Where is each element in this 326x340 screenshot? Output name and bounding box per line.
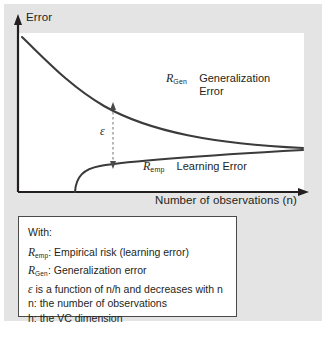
generalization-name-line1: Generalization: [199, 72, 270, 84]
legend-rgen-text: : Generalization error: [48, 264, 147, 276]
legend-box: With: Remp: Empirical risk (learning err…: [18, 216, 237, 317]
legend-item-remp: Remp: Empirical risk (learning error): [28, 245, 236, 264]
legend-title: With:: [28, 225, 236, 240]
figure-container: Error Number of observations (n) RGenGen…: [0, 0, 326, 340]
learning-error-label: RempLearning Error: [143, 160, 247, 176]
y-axis: [14, 14, 22, 192]
legend-remp-text: : Empirical risk (learning error): [48, 246, 189, 258]
legend-remp-symbol: R: [28, 246, 35, 258]
legend-item-n: n: the number of observations: [28, 296, 236, 311]
x-axis-label: Number of observations (n): [155, 194, 297, 206]
learning-error-name: Learning Error: [177, 160, 247, 173]
chart-canvas: [0, 0, 326, 215]
empirical-subscript: emp: [150, 166, 164, 173]
legend-rgen-subscript: Gen: [35, 270, 48, 277]
legend-rgen-symbol: R: [28, 264, 35, 276]
generalization-subscript: Gen: [173, 78, 187, 85]
legend-item-epsilon: ε is a function of n/h and decreases wit…: [28, 282, 236, 297]
legend-epsilon-text: is a function of n/h and decreases with …: [33, 283, 223, 295]
y-axis-label: Error: [26, 11, 52, 23]
legend-remp-subscript: emp: [35, 252, 48, 259]
generalization-error-label: RGenGeneralizationError: [166, 72, 270, 98]
epsilon-label: ε: [100, 124, 105, 139]
legend-item-rgen: RGen: Generalization error: [28, 263, 236, 282]
generalization-name-line2: Error: [199, 85, 223, 97]
generalization-name: GeneralizationError: [199, 72, 270, 98]
legend-item-h: h: the VC dimension: [28, 311, 236, 326]
